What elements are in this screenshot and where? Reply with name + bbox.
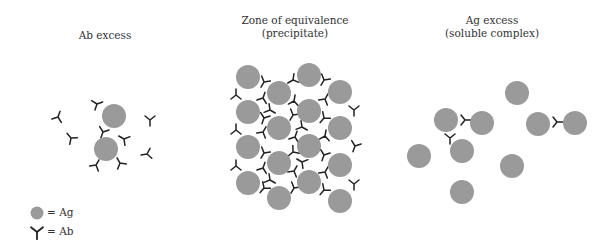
antigen-icon bbox=[236, 171, 260, 195]
antigen-icon bbox=[505, 81, 529, 105]
antigen-icon bbox=[297, 170, 321, 194]
antibody-icon bbox=[264, 104, 278, 118]
antigen-icon bbox=[267, 116, 291, 140]
legend-antigen-icon bbox=[31, 207, 44, 220]
antigen-icon bbox=[328, 116, 352, 140]
antibody-icon bbox=[349, 180, 359, 190]
antibody-icon bbox=[264, 174, 278, 188]
antigen-icon bbox=[328, 189, 352, 213]
antigen-icon bbox=[407, 144, 431, 168]
antigen-icon bbox=[102, 104, 126, 128]
antigen-icon bbox=[267, 151, 291, 175]
legend-antibody-icon bbox=[31, 227, 43, 239]
title-line: Ab excess bbox=[79, 29, 132, 42]
antibody-icon bbox=[231, 160, 241, 170]
antigen-icon bbox=[450, 180, 474, 204]
antigen-icon bbox=[267, 81, 291, 105]
legend-label-ab: = Ab bbox=[47, 225, 73, 237]
antibody-icon bbox=[349, 106, 359, 116]
panel-title-ag-excess: Ag excess (soluble complex) bbox=[445, 14, 539, 40]
antibody-icon bbox=[231, 124, 241, 134]
antigen-icon bbox=[94, 137, 118, 161]
antigen-icon bbox=[297, 63, 321, 87]
antigen-icon bbox=[526, 112, 550, 136]
title-subline: (precipitate) bbox=[241, 27, 348, 40]
panel-title-equivalence: Zone of equivalence (precipitate) bbox=[241, 14, 348, 40]
antigen-icon bbox=[297, 99, 321, 123]
antibody-icon bbox=[116, 132, 130, 146]
legend-label-ag: = Ag bbox=[47, 206, 73, 218]
antibody-icon bbox=[92, 97, 105, 110]
panel-title-ab-excess: Ab excess bbox=[79, 29, 132, 42]
antigen-icon bbox=[563, 111, 587, 135]
antigen-icon bbox=[328, 80, 352, 104]
antibody-icon bbox=[52, 110, 65, 123]
antigen-icon bbox=[297, 134, 321, 158]
antigen-icon bbox=[450, 139, 474, 163]
title-line: Zone of equivalence bbox=[241, 14, 348, 27]
antigen-icon bbox=[328, 153, 352, 177]
antibody-icon bbox=[63, 130, 77, 144]
antigen-icon bbox=[470, 111, 494, 135]
antibody-icon bbox=[348, 141, 361, 154]
antibody-icon bbox=[140, 148, 152, 160]
antibody-icon bbox=[145, 116, 155, 126]
antigen-icon bbox=[236, 135, 260, 159]
antibody-icon bbox=[113, 155, 127, 169]
antibody-icon bbox=[445, 134, 455, 144]
antigen-icon bbox=[267, 186, 291, 210]
antigen-icon bbox=[434, 108, 458, 132]
antigen-icon bbox=[236, 100, 260, 124]
antibody-icon bbox=[231, 89, 241, 99]
title-line: Ag excess bbox=[445, 14, 539, 27]
antibody-icon bbox=[461, 115, 471, 125]
immune-precipitation-diagram: Ab excess Zone of equivalence (precipita… bbox=[0, 0, 611, 247]
antibody-icon bbox=[553, 117, 563, 127]
antigen-icon bbox=[236, 65, 260, 89]
antigen-icon bbox=[500, 154, 524, 178]
title-subline: (soluble complex) bbox=[445, 27, 539, 40]
